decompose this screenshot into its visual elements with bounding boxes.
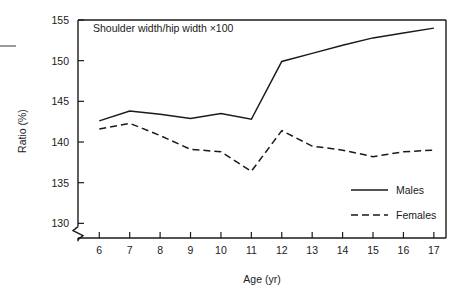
x-tick-label-8: 8 xyxy=(157,244,163,256)
x-tick-label-17: 17 xyxy=(428,244,440,256)
x-tick-label-12: 12 xyxy=(276,244,288,256)
line-chart-canvas: 13013514014515015567891011121314151617 S… xyxy=(0,0,467,294)
x-tick-label-16: 16 xyxy=(398,244,410,256)
y-axis-title: Ratio (%) xyxy=(16,109,28,153)
axis-tick-labels: 13013514014515015567891011121314151617 xyxy=(51,14,439,256)
x-tick-label-9: 9 xyxy=(188,244,194,256)
y-tick-label-130: 130 xyxy=(51,217,69,229)
chart-figure: 13013514014515015567891011121314151617 S… xyxy=(0,0,467,294)
y-tick-label-140: 140 xyxy=(51,136,69,148)
y-tick-label-135: 135 xyxy=(51,177,69,189)
x-tick-label-13: 13 xyxy=(306,244,318,256)
legend-label-females: Females xyxy=(396,209,436,221)
x-axis-title: Age (yr) xyxy=(243,273,280,285)
x-tick-label-7: 7 xyxy=(127,244,133,256)
x-tick-label-6: 6 xyxy=(96,244,102,256)
y-tick-label-145: 145 xyxy=(51,95,69,107)
series-line-males xyxy=(99,28,434,121)
x-tick-label-14: 14 xyxy=(337,244,349,256)
legend-label-males: Males xyxy=(396,184,424,196)
page-edge-artifact xyxy=(0,45,16,47)
x-tick-label-10: 10 xyxy=(215,244,227,256)
axis-ticks xyxy=(78,20,434,238)
y-tick-label-155: 155 xyxy=(51,14,69,26)
chart-legend: Males Females xyxy=(351,184,436,221)
x-tick-label-11: 11 xyxy=(246,244,257,256)
data-series-group xyxy=(99,28,434,171)
x-tick-label-15: 15 xyxy=(367,244,379,256)
chart-axes xyxy=(73,20,446,241)
series-line-females xyxy=(99,123,434,171)
y-tick-label-150: 150 xyxy=(51,55,69,67)
panel-title: Shoulder width/hip width ×100 xyxy=(93,22,234,34)
